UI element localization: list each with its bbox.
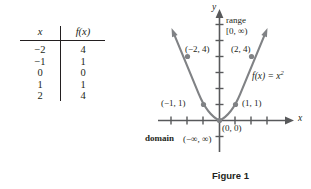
cell-fx: 0: [61, 67, 106, 78]
plot-point-neg2-4: [185, 54, 190, 59]
table-row: 0 0: [20, 67, 105, 78]
plot-point-neg1-1: [201, 102, 206, 107]
cell-x: −1: [20, 56, 61, 67]
domain-label-interval: (−∞, ∞): [183, 134, 211, 144]
range-label-title: range: [226, 15, 246, 25]
column-header-fx-text: f(x): [76, 26, 91, 37]
table-body: −2 4 −1 1 0 0 1 1 2 4: [20, 41, 105, 102]
cell-fx: 1: [61, 79, 106, 90]
plot-point-2-4: [249, 54, 254, 59]
column-header-x: x: [20, 26, 61, 41]
cell-x: −2: [20, 41, 61, 56]
x-axis-label: x: [298, 113, 302, 123]
table-row: 2 4: [20, 90, 105, 101]
range-label-interval: [0, ∞): [226, 26, 247, 36]
table-row: −1 1: [20, 56, 105, 67]
column-header-fx: f(x): [61, 26, 106, 41]
figure-caption: Figure 1: [150, 170, 311, 181]
plot-point-1-1: [233, 102, 238, 107]
function-table-panel: x f(x) −2 4 −1 1 0 0 1 1: [0, 0, 150, 189]
cell-x: 0: [20, 67, 61, 78]
point-label-1-1: (1, 1): [242, 98, 262, 108]
figure-container: x f(x) −2 4 −1 1 0 0 1 1: [0, 0, 311, 189]
table-header-row: x f(x): [20, 26, 105, 41]
table-head: x f(x): [20, 26, 105, 41]
cell-x: 2: [20, 90, 61, 101]
graph-panel: y x range [0, ∞) domain (−∞, ∞) f(x) = x…: [150, 0, 311, 189]
cell-fx: 4: [61, 41, 106, 56]
table-row: −2 4: [20, 41, 105, 56]
table-row: 1 1: [20, 79, 105, 90]
function-equation-exponent: 2: [281, 69, 284, 76]
point-label-neg2-4: (−2, 4): [185, 44, 210, 54]
y-axis-label: y: [212, 2, 216, 12]
function-equation-base: f(x) = x: [252, 71, 281, 81]
point-label-0-0: (0, 0): [222, 123, 242, 133]
cell-fx: 1: [61, 56, 106, 67]
domain-label-title: domain: [145, 133, 174, 143]
point-label-neg1-1: (−1, 1): [161, 98, 186, 108]
cell-fx: 4: [61, 90, 106, 101]
point-label-2-4: (2, 4): [231, 44, 251, 54]
function-equation-label: f(x) = x2: [252, 68, 284, 81]
cell-x: 1: [20, 79, 61, 90]
function-table: x f(x) −2 4 −1 1 0 0 1 1: [20, 26, 105, 101]
